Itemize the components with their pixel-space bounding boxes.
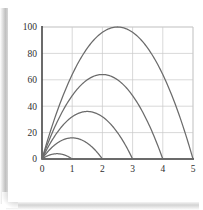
x-tick-label: 0 xyxy=(40,164,45,174)
parabola-family-chart: 020406080100 012345 xyxy=(8,6,200,202)
y-tick-label: 20 xyxy=(28,128,38,138)
curve-range-1 xyxy=(42,154,72,159)
x-tick-label: 4 xyxy=(160,164,165,174)
y-tick-label: 40 xyxy=(28,102,38,112)
y-tick-label: 0 xyxy=(32,154,37,164)
x-tick-label: 3 xyxy=(130,164,135,174)
figure-card: 020406080100 012345 xyxy=(0,0,203,210)
data-curves xyxy=(42,27,193,159)
plot-area: 020406080100 012345 xyxy=(8,6,200,202)
y-tick-labels: 020406080100 xyxy=(23,22,38,164)
x-tick-label: 1 xyxy=(70,164,75,174)
chart-canvas: 020406080100 012345 xyxy=(8,6,200,202)
y-tick-label: 60 xyxy=(28,75,38,85)
card-shadow-bottom xyxy=(6,201,199,210)
curve-range-3 xyxy=(42,111,133,159)
x-tick-label: 5 xyxy=(191,164,196,174)
x-tick-label: 2 xyxy=(100,164,105,174)
y-tick-label: 100 xyxy=(23,22,38,32)
y-tick-label: 80 xyxy=(28,49,38,59)
x-tick-labels: 012345 xyxy=(40,164,196,174)
